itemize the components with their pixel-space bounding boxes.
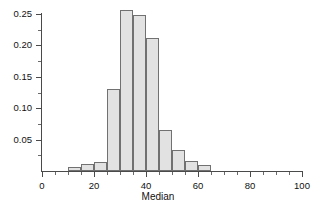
x-tick-mark xyxy=(289,172,290,175)
x-tick-mark xyxy=(224,172,225,175)
histogram-bar xyxy=(120,10,133,171)
y-tick-mark xyxy=(36,140,41,141)
x-tick-mark xyxy=(250,172,251,177)
x-tick-mark xyxy=(146,172,147,177)
x-tick-mark xyxy=(237,172,238,175)
y-tick-mark xyxy=(38,93,41,94)
y-tick-mark xyxy=(36,77,41,78)
x-tick-mark xyxy=(120,172,121,175)
histogram-bar xyxy=(107,89,120,171)
x-tick-mark xyxy=(133,172,134,175)
x-tick-mark xyxy=(81,172,82,175)
y-tick-label: 0.20 xyxy=(14,38,33,51)
histogram-bar xyxy=(185,161,198,171)
histogram-bar xyxy=(81,164,94,171)
y-tick-mark xyxy=(38,124,41,125)
y-tick-label: 0.05 xyxy=(14,133,33,146)
histogram-bar xyxy=(94,162,107,171)
histogram-bar xyxy=(146,38,159,171)
x-axis-title: Median xyxy=(0,190,316,203)
x-tick-mark xyxy=(185,172,186,175)
histogram-chart: 0.050.100.150.200.25 020406080100 Median xyxy=(0,0,316,211)
y-tick-mark xyxy=(36,14,41,15)
histogram-bar xyxy=(198,165,211,171)
y-tick-mark xyxy=(36,108,41,109)
x-tick-mark xyxy=(159,172,160,175)
y-tick-mark xyxy=(38,30,41,31)
y-tick-mark xyxy=(36,45,41,46)
x-tick-mark xyxy=(94,172,95,177)
histogram-bar xyxy=(172,150,185,171)
histogram-bars xyxy=(42,8,303,171)
x-tick-mark xyxy=(172,172,173,175)
x-tick-mark xyxy=(55,172,56,175)
histogram-bar xyxy=(159,130,172,171)
y-tick-label: 0.15 xyxy=(14,70,33,83)
x-tick-mark xyxy=(198,172,199,177)
x-tick-mark xyxy=(42,172,43,177)
y-tick-mark xyxy=(38,155,41,156)
y-tick-label: 0.25 xyxy=(14,7,33,20)
y-tick-label: 0.10 xyxy=(14,101,33,114)
x-tick-mark xyxy=(263,172,264,175)
histogram-bar xyxy=(133,15,146,171)
y-tick-mark xyxy=(38,61,41,62)
x-tick-mark xyxy=(68,172,69,175)
histogram-bar xyxy=(68,167,81,171)
x-tick-mark xyxy=(211,172,212,175)
x-tick-mark xyxy=(107,172,108,175)
x-tick-mark xyxy=(302,172,303,177)
x-tick-mark xyxy=(276,172,277,175)
